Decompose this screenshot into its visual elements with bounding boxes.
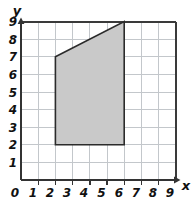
y-tick-label: 4 xyxy=(8,103,17,117)
x-tick-label: 6 xyxy=(115,186,123,200)
x-axis xyxy=(21,177,181,184)
y-tick-label: 7 xyxy=(9,50,18,64)
y-tick-label: 5 xyxy=(9,86,17,100)
x-tick-label: 9 xyxy=(166,186,174,200)
y-tick-labels: 1 2 3 4 5 6 7 8 9 xyxy=(8,15,18,170)
shaded-quadrilateral xyxy=(55,22,124,145)
x-axis-label: x xyxy=(181,178,191,193)
coordinate-grid-figure: y x 0 1 2 3 4 5 6 7 8 9 1 2 3 4 5 6 7 8 … xyxy=(0,0,192,202)
y-tick-label: 3 xyxy=(9,121,17,135)
x-tick-label: 8 xyxy=(149,186,157,200)
plot-canvas: y x 0 1 2 3 4 5 6 7 8 9 1 2 3 4 5 6 7 8 … xyxy=(0,0,192,202)
x-tick-label: 2 xyxy=(46,186,54,200)
y-tick-label: 9 xyxy=(9,15,17,29)
y-tick-label: 8 xyxy=(9,33,17,47)
x-tick-labels: 1 2 3 4 5 6 7 8 9 xyxy=(29,186,174,200)
x-tick-label: 7 xyxy=(132,186,141,200)
y-tick-label: 6 xyxy=(9,68,17,82)
x-tick-label: 3 xyxy=(63,186,71,200)
origin-tick-label: 0 xyxy=(11,186,19,200)
x-tick-label: 1 xyxy=(29,186,37,200)
x-tick-label: 5 xyxy=(97,186,105,200)
y-axis xyxy=(18,18,25,181)
y-tick-label: 1 xyxy=(9,156,17,170)
x-tick-label: 4 xyxy=(79,186,88,200)
y-tick-label: 2 xyxy=(9,138,17,152)
